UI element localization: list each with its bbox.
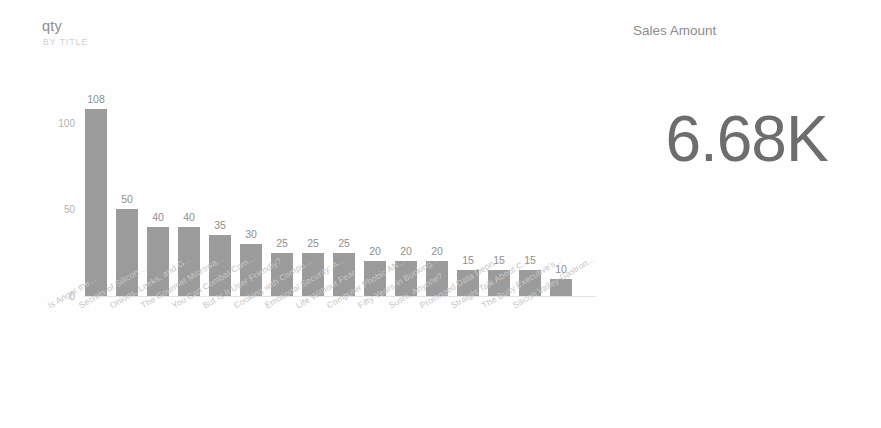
bar-value-label: 25 [271,237,293,249]
qty-by-title-bar-chart-visual[interactable]: qty BY TITLE 050100108504040353025252520… [0,0,620,428]
y-axis-tick-label: 100 [58,117,75,128]
bar-value-label: 20 [426,245,448,257]
bar[interactable] [85,109,107,296]
y-axis-tick-label: 50 [64,204,75,215]
chart-subtitle: BY TITLE [43,37,88,47]
bar-value-label: 20 [395,245,417,257]
bar-value-label: 108 [85,93,107,105]
bar-value-label: 25 [333,237,355,249]
bar-value-label: 25 [302,237,324,249]
chart-title: qty [42,18,62,34]
bar-value-label: 20 [364,245,386,257]
bar-slot[interactable]: 108 [84,88,115,296]
bar-value-label: 40 [178,211,200,223]
bar-value-label: 50 [116,193,138,205]
bar-value-label: 35 [209,219,231,231]
sales-amount-card-visual[interactable]: Sales Amount 6.68K [620,0,881,428]
bar-value-label: 30 [240,228,262,240]
bar-value-label: 15 [457,254,479,266]
bar-value-label: 40 [147,211,169,223]
kpi-card-title: Sales Amount [633,23,716,38]
kpi-card-value: 6.68K [620,102,873,176]
